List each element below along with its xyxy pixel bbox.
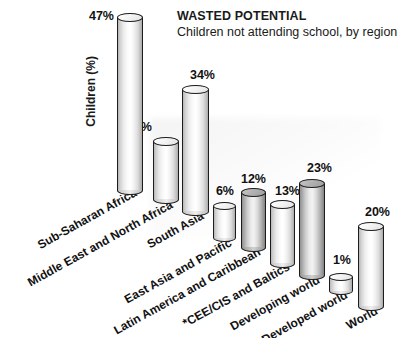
bar-3 bbox=[213, 202, 236, 238]
chart-subtitle: Children not attending school, by region bbox=[177, 24, 397, 40]
bar-1 bbox=[153, 137, 179, 199]
bar-top-cap bbox=[299, 179, 325, 188]
value-label-2: 34% bbox=[173, 68, 215, 82]
bar-body bbox=[270, 205, 295, 264]
bar-top-cap bbox=[329, 273, 353, 281]
bar-top-cap bbox=[270, 200, 295, 209]
bar-6 bbox=[299, 179, 325, 275]
bar-5 bbox=[270, 200, 295, 263]
bar-body bbox=[182, 90, 209, 212]
bar-body bbox=[241, 193, 266, 248]
bar-top-cap bbox=[117, 13, 143, 22]
bar-body bbox=[358, 227, 384, 307]
value-label-6: 23% bbox=[290, 161, 332, 175]
bar-8 bbox=[358, 222, 384, 306]
bar-body bbox=[117, 18, 143, 191]
bar-top-cap bbox=[358, 222, 384, 231]
chart-canvas: WASTED POTENTIAL Children not attending … bbox=[0, 0, 397, 338]
value-label-0: 47% bbox=[72, 9, 114, 23]
value-label-8: 20% bbox=[348, 205, 390, 219]
bar-0 bbox=[117, 13, 143, 190]
bar-body bbox=[299, 184, 325, 276]
bar-7 bbox=[329, 273, 353, 291]
bar-body bbox=[153, 142, 179, 200]
chart-title-block: WASTED POTENTIAL Children not attending … bbox=[177, 8, 397, 40]
bar-2 bbox=[182, 85, 209, 211]
bar-top-cap bbox=[153, 137, 179, 146]
y-axis-label: Children (%) bbox=[84, 56, 98, 127]
bar-4 bbox=[241, 188, 266, 247]
bar-top-cap bbox=[182, 85, 209, 94]
bar-top-cap bbox=[213, 202, 236, 210]
chart-title: WASTED POTENTIAL bbox=[177, 8, 397, 24]
bar-body bbox=[213, 206, 236, 238]
bar-top-cap bbox=[241, 188, 266, 197]
